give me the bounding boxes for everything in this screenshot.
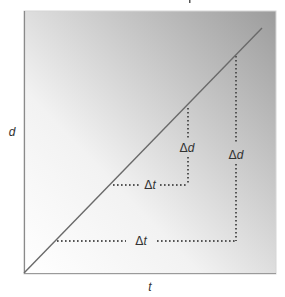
large-delta-d-label: Δd (229, 148, 244, 162)
small-delta-d-label: Δd (180, 141, 195, 155)
large-delta-t-label: Δt (135, 234, 147, 248)
y-axis-label: d (9, 125, 16, 139)
small-delta-t-label: Δt (144, 178, 156, 192)
distance-time-diagram: Δt Δd Δt Δd d t (0, 0, 285, 297)
x-axis-label: t (148, 280, 152, 294)
cropped-title-fragment (189, 0, 191, 3)
